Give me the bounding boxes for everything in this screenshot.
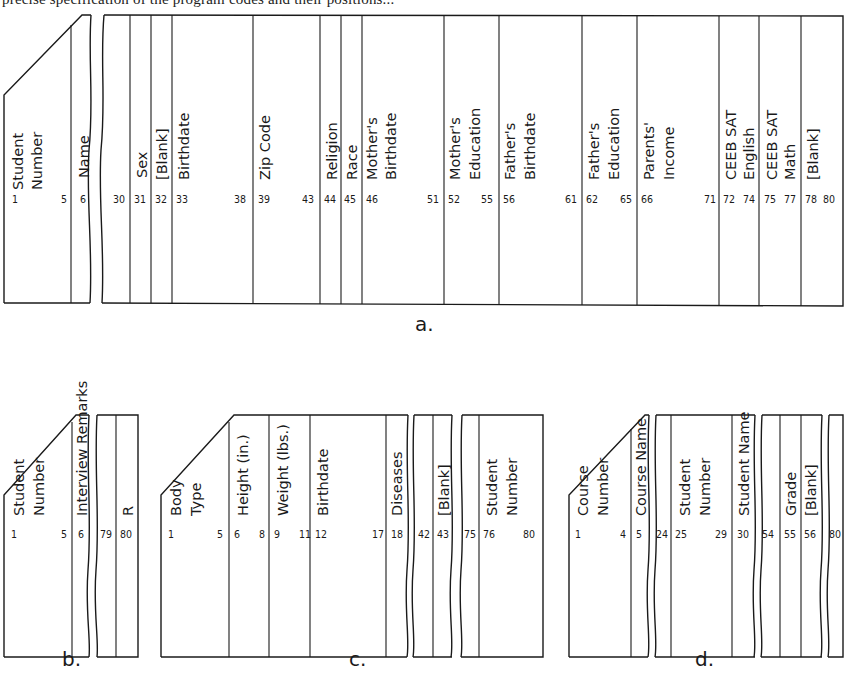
col-num: 66 [641,193,653,205]
col-num: 1 [12,193,18,205]
card-d-outline [569,415,843,657]
col-num: 44 [324,193,336,205]
col-num: 54 [762,528,774,540]
card-b-label: b. [62,647,81,671]
field-label-course-number-2: Number [595,458,611,516]
field-label-student-number-2: Number [29,132,45,190]
field-label-ceeb-sat-math-2: Math [782,144,798,180]
punch-card-diagram [0,0,848,673]
field-label-mothers-education-2: Education [467,108,483,180]
col-num: 76 [483,528,495,540]
field-label-birthdate: Birthdate [315,448,331,516]
card-b-outline [4,415,138,657]
col-num: 80 [120,528,132,540]
col-num: 51 [427,193,439,205]
field-label-student-number-2: Number [697,458,713,516]
col-num: 80 [523,528,535,540]
field-label-fathers-education-1: Father's [586,123,602,180]
field-label-fathers-birthdate-2: Birthdate [522,112,538,180]
col-num: 5 [636,528,642,540]
card-a-outline [4,15,843,306]
col-num: 45 [344,193,356,205]
col-num: 38 [234,193,246,205]
col-num: 30 [737,528,749,540]
col-num: 79 [100,528,112,540]
col-num: 61 [565,193,577,205]
col-num: 6 [78,528,84,540]
field-label-race: Race [344,144,360,180]
col-num: 24 [656,528,668,540]
field-label-birthdate: Birthdate [176,112,192,180]
col-num: 77 [784,193,796,205]
col-num: 43 [302,193,314,205]
field-label-mothers-birthdate-1: Mother's [364,117,380,180]
col-num: 46 [366,193,378,205]
col-num: 32 [155,193,167,205]
col-num: 29 [715,528,727,540]
col-num: 33 [176,193,188,205]
field-label-student-number-2: Number [504,458,520,516]
field-label-student-number-1: Student [10,133,26,190]
col-num: 5 [61,193,67,205]
field-label-weight: Weight (lbs.) [275,424,291,516]
field-label-body-type-2: Type [188,483,204,516]
col-num: 5 [61,528,67,540]
field-label-blank-56-80: [Blank] [803,464,819,516]
field-label-fathers-education-2: Education [606,108,622,180]
col-num: 55 [481,193,493,205]
field-label-student-number-1: Student [677,459,693,516]
field-label-r: R [120,506,136,516]
cropped-caption-text: precise specification of the program cod… [2,0,394,8]
col-num: 17 [372,528,384,540]
col-num: 75 [764,193,776,205]
col-num: 1 [575,528,581,540]
col-num: 56 [804,528,816,540]
field-label-height: Height (in.) [235,434,251,516]
col-num: 72 [723,193,735,205]
col-num: 5 [217,528,223,540]
field-label-student-number-1: Student [484,459,500,516]
field-label-body-type-1: Body [168,479,184,516]
col-num: 75 [464,528,476,540]
field-label-blank-43-75: [Blank] [436,464,452,516]
field-label-student-number-2: Number [31,458,47,516]
col-num: 18 [391,528,403,540]
field-label-student-name: Student Name [736,412,752,516]
col-num: 8 [259,528,265,540]
field-label-blank-78-80: [Blank] [805,128,821,180]
col-num: 42 [418,528,430,540]
col-num: 80 [823,193,835,205]
col-num: 80 [829,528,841,540]
col-num: 52 [448,193,460,205]
field-label-sex: Sex [134,152,150,178]
field-label-parents-income-1: Parents' [641,122,657,180]
col-num: 31 [134,193,146,205]
field-label-ceeb-sat-math-1: CEEB SAT [764,110,780,180]
col-num: 62 [586,193,598,205]
card-a-label: a. [415,312,434,336]
col-num: 39 [258,193,270,205]
field-label-mothers-education-1: Mother's [447,117,463,180]
field-label-zip-code: Zip Code [257,115,273,180]
col-num: 1 [168,528,174,540]
field-label-religion: Religion [324,122,340,180]
col-num: 25 [675,528,687,540]
card-d-label: d. [695,647,714,671]
field-label-fathers-birthdate-1: Father's [502,123,518,180]
field-label-name: Name [76,135,92,178]
col-num: 78 [805,193,817,205]
card-c-label: c. [349,647,366,671]
field-label-ceeb-sat-english-1: CEEB SAT [723,110,739,180]
col-num: 56 [503,193,515,205]
field-label-blank-32: [Blank] [154,128,170,180]
col-num: 30 [113,193,125,205]
col-num: 65 [620,193,632,205]
field-label-grade: Grade [783,472,799,516]
field-label-course-name: Course Name [633,418,649,516]
col-num: 12 [315,528,327,540]
col-num: 71 [704,193,716,205]
field-label-parents-income-2: Income [661,127,677,180]
col-num: 55 [784,528,796,540]
field-label-diseases: Diseases [389,451,405,516]
col-num: 43 [437,528,449,540]
